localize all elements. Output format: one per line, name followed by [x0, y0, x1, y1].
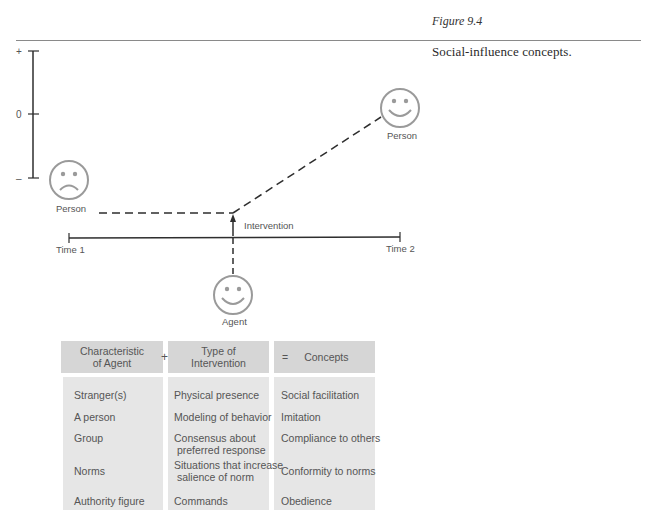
y-axis: + 0 –	[16, 46, 39, 184]
row-4-intervention: Situations that increase salience of nor…	[174, 459, 283, 483]
time-axis	[69, 232, 400, 243]
plus-operator: +	[161, 350, 168, 364]
header-characteristic-of-agent: Characteristic of Agent	[61, 341, 163, 373]
row-3-intervention: Consensus about preferred response	[174, 432, 266, 456]
row-4-concept: Conformity to norms	[281, 465, 376, 477]
row-2-agent: A person	[74, 411, 115, 423]
y-tick-minus: –	[16, 173, 22, 184]
row-1-agent: Stranger(s)	[74, 389, 127, 401]
time-2-label: Time 2	[386, 243, 415, 254]
agent-smile-face-icon	[214, 276, 252, 314]
row-5-agent: Authority figure	[74, 495, 145, 507]
y-tick-plus: +	[16, 46, 22, 57]
frown-face-icon	[50, 161, 88, 199]
person-before-label: Person	[56, 203, 86, 214]
agent-label: Agent	[222, 316, 247, 327]
intervention-arrow	[230, 214, 236, 275]
row-1-intervention: Physical presence	[174, 389, 259, 401]
row-1-concept: Social facilitation	[281, 389, 359, 401]
smile-face-icon	[381, 89, 419, 127]
row-5-intervention: Commands	[174, 495, 228, 507]
social-influence-diagram: + 0 – Person Person Intervention Time 1 …	[0, 0, 655, 340]
equals-operator: =	[282, 351, 288, 363]
row-5-concept: Obedience	[281, 495, 332, 507]
row-2-intervention: Modeling of behavior	[174, 411, 271, 423]
row-2-concept: Imitation	[281, 411, 321, 423]
intervention-label: Intervention	[244, 220, 294, 231]
row-3-concept: Compliance to others	[281, 432, 380, 444]
header-concepts: = Concepts	[274, 341, 375, 373]
header-type-of-intervention: Type of Intervention	[168, 341, 269, 373]
person-after-label: Person	[387, 130, 417, 141]
y-tick-zero: 0	[16, 109, 22, 120]
row-4-agent: Norms	[74, 465, 105, 477]
time-1-label: Time 1	[56, 244, 85, 255]
row-3-agent: Group	[74, 432, 103, 444]
attitude-trajectory	[99, 117, 381, 213]
